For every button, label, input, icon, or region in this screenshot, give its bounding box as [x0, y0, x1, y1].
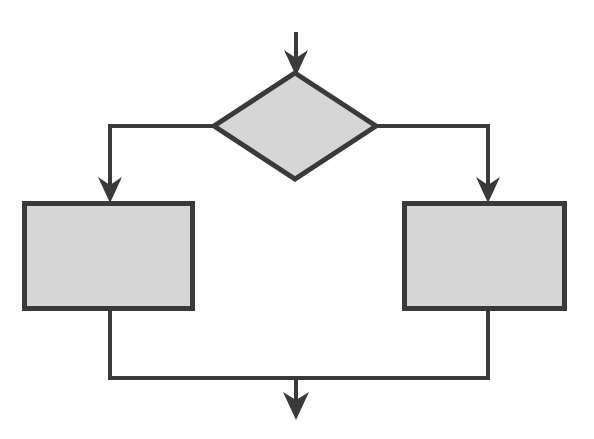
left-box-to-merge-connector	[110, 311, 296, 378]
decision-to-right-box-connector	[376, 126, 500, 203]
process-box-left-shape[interactable]	[25, 204, 193, 309]
decision-to-left-box-connector	[98, 126, 214, 203]
decision-diamond-shape[interactable]	[214, 73, 376, 179]
process-box-left[interactable]	[25, 204, 193, 309]
decision-diamond[interactable]	[214, 73, 376, 179]
process-box-right-shape[interactable]	[405, 204, 565, 309]
exit-arrow	[283, 378, 309, 420]
entry-arrow	[284, 32, 308, 76]
flowchart-canvas	[0, 0, 594, 439]
flowchart-diagram	[0, 0, 594, 439]
right-branch-line	[376, 126, 488, 199]
right-box-to-merge-connector	[296, 311, 488, 378]
process-box-right[interactable]	[405, 204, 565, 309]
left-branch-line	[110, 126, 214, 199]
